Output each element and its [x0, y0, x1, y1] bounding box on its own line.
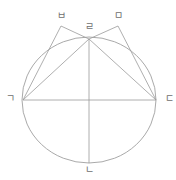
segment-chord-right-apex: [89, 39, 156, 100]
vertex-label-top-left: ㅂ: [57, 11, 66, 21]
vertex-label-right: ㄷ: [165, 94, 174, 104]
vertex-label-left: ㄱ: [6, 94, 15, 104]
vertex-label-bottom: ㄴ: [85, 165, 94, 175]
geometry-figure: ㅂ ㅁ ㄹ ㄱ ㄷ ㄴ: [0, 0, 176, 180]
vertex-label-apex: ㄹ: [85, 22, 94, 32]
segment-chord-left-apex: [23, 39, 89, 100]
segment-leg-right-to-topright: [118, 26, 156, 100]
segment-leg-left-to-topleft: [23, 26, 61, 100]
vertex-label-top-right: ㅁ: [114, 11, 123, 21]
